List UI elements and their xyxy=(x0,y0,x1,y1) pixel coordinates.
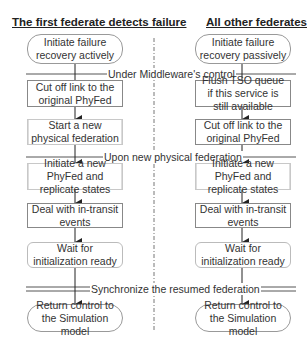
left-step-initiate-new-phyfed: Initiate a new PhyFed and replicate stat… xyxy=(27,163,123,190)
right-step-return-control: Return control to the Simulation model xyxy=(195,304,291,332)
phase-label-synchronize: Synchronize the resumed federation xyxy=(90,283,261,295)
left-step-initiate-actively: Initiate failure recovery actively xyxy=(27,34,123,64)
left-column-header: The first federate detects failure xyxy=(12,16,186,28)
right-step-wait-init-ready: Wait for initialization ready xyxy=(195,242,291,268)
right-step-flush-tso-queue: Flush TSO queue if this service is still… xyxy=(195,80,291,107)
left-step-cut-off-link: Cut off link to the original PhyFed xyxy=(27,80,123,107)
right-step-initiate-passively: Initiate failure recovery passively xyxy=(195,34,291,64)
right-step-cut-off-link: Cut off link to the original PhyFed xyxy=(195,119,291,145)
right-column-header: All other federates xyxy=(206,16,307,28)
right-step-in-transit-events: Deal with in-transit events xyxy=(195,203,291,228)
left-step-start-new-federation: Start a new physical federation xyxy=(27,119,123,145)
right-step-initiate-new-phyfed: Initiate a new PhyFed and replicate stat… xyxy=(195,163,291,190)
left-step-in-transit-events: Deal with in-transit events xyxy=(27,203,123,228)
left-step-return-control: Return control to the Simulation model xyxy=(27,304,123,332)
left-step-wait-init-ready: Wait for initialization ready xyxy=(27,242,123,268)
